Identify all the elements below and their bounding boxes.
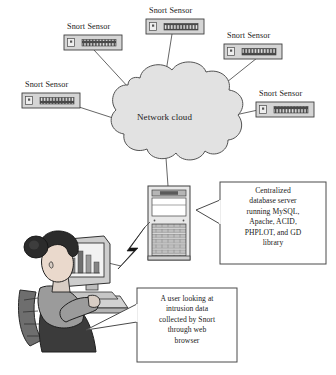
link-cloud-server <box>166 158 168 186</box>
sensor-top-left-icon[interactable] <box>64 35 122 50</box>
callout-server-line-2: database server <box>224 196 322 206</box>
sensor-top-center-icon[interactable] <box>146 19 204 34</box>
callout-user-text: A user looking at intrusion data collect… <box>141 294 233 346</box>
sensor-top-left-label: Snort Sensor <box>67 23 110 32</box>
network-cloud-shape <box>111 62 243 160</box>
network-diagram: Snort Sensor Snort Sensor Snort Sensor S… <box>0 0 336 375</box>
sensor-top-center-label: Snort Sensor <box>149 7 192 16</box>
link-sensor-mid-left-cloud <box>79 107 113 118</box>
callout-user-line-1: A user looking at <box>141 294 233 304</box>
callout-server-text: Centralized database server running MySQ… <box>224 186 322 249</box>
user-at-computer-icon <box>18 231 128 352</box>
sensor-mid-left-icon[interactable] <box>22 93 80 108</box>
sensor-top-right-label: Snort Sensor <box>227 32 270 41</box>
cloud-label: Network cloud <box>137 112 192 122</box>
sensor-top-right-icon[interactable] <box>224 44 282 59</box>
callout-user-line-5: browser <box>141 336 233 346</box>
lightning-bolt-icon <box>104 222 150 269</box>
callout-user-line-2: intrusion data <box>141 304 233 314</box>
link-sensor-top-left-cloud <box>94 50 129 88</box>
sensor-mid-left-label: Snort Sensor <box>25 81 68 90</box>
callout-server-line-1: Centralized <box>224 186 322 196</box>
tower-server-icon[interactable] <box>148 186 190 260</box>
callout-server-line-6: library <box>224 238 322 248</box>
callout-server-line-4: Apache, ACID, <box>224 217 322 227</box>
sensor-mid-right-icon[interactable] <box>256 102 314 117</box>
callout-server-line-5: PHPLOT, and GD <box>224 228 322 238</box>
callout-user-line-4: through web <box>141 325 233 335</box>
sensor-mid-right-label: Snort Sensor <box>259 90 302 99</box>
callout-user-line-3: collected by Snort <box>141 315 233 325</box>
callout-server-line-3: running MySQL, <box>224 207 322 217</box>
